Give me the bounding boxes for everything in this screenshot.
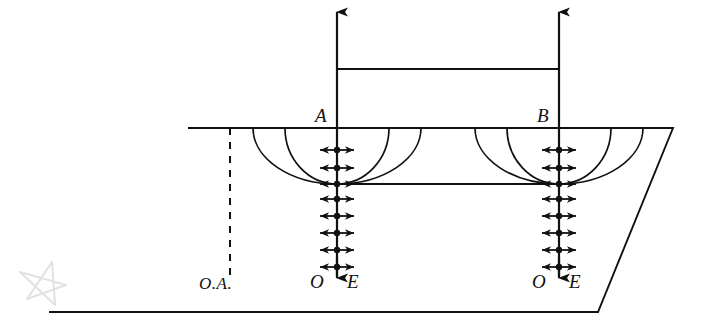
label-axis-a-left: O bbox=[310, 271, 324, 293]
label-source-a: A bbox=[315, 105, 327, 127]
diagram-canvas: A B O E O E O.A. bbox=[0, 0, 701, 332]
label-reference-oa: O.A. bbox=[199, 274, 232, 294]
label-axis-b-right: E bbox=[569, 271, 581, 293]
star-watermark bbox=[20, 262, 66, 305]
label-axis-b-left: O bbox=[532, 271, 546, 293]
label-axis-a-right: E bbox=[347, 271, 359, 293]
label-source-b: B bbox=[537, 105, 549, 127]
